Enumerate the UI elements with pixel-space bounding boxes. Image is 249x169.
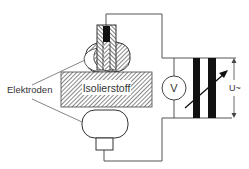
top-electrode-core: [103, 26, 110, 42]
insulator-label: Isolierstoff: [83, 82, 131, 94]
voltmeter: V: [162, 76, 186, 100]
adjust-arrow-shaft: [185, 74, 224, 108]
voltage-arrow-down-icon: [232, 113, 237, 118]
bottom-electrode: [82, 110, 128, 150]
voltage-arrow-up-icon: [232, 58, 237, 63]
bottom-electrode-stem: [96, 138, 113, 150]
bottom-electrode-body: [82, 110, 128, 138]
variable-transformer: [185, 58, 228, 118]
insulator-block: Isolierstoff: [61, 72, 152, 107]
electrodes-label: Elektroden: [7, 84, 52, 95]
voltmeter-label: V: [170, 82, 178, 94]
voltage-indicator: U~: [229, 58, 241, 118]
top-electrode: [84, 25, 130, 72]
transformer-bar-left: [193, 58, 200, 118]
dielectric-test-diagram: Isolierstoff Elektroden V U~: [0, 0, 249, 169]
top-electrode-core-lines: [104, 42, 109, 70]
voltage-label: U~: [229, 83, 241, 93]
transformer-bar-right: [208, 58, 216, 118]
